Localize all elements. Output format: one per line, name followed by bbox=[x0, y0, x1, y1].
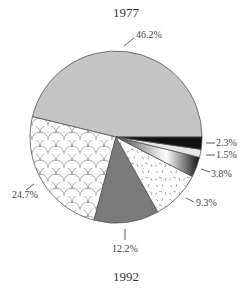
label-1-5: 1.5% bbox=[206, 149, 237, 160]
label-3-8-text: 3.8% bbox=[211, 168, 232, 179]
label-9-3: 9.3% bbox=[186, 197, 217, 208]
pie-chart: 46.2% 2.3% 1.5% 3.8% 9.3% 12.2% 24.7% bbox=[0, 0, 252, 291]
label-3-8: 3.8% bbox=[201, 168, 232, 179]
label-2-3-text: 2.3% bbox=[216, 137, 237, 148]
label-2-3: 2.3% bbox=[206, 137, 237, 148]
label-1-5-text: 1.5% bbox=[216, 149, 237, 160]
label-46-2: 46.2% bbox=[124, 29, 162, 46]
label-24-7: 24.7% bbox=[12, 184, 38, 200]
label-12-2: 12.2% bbox=[112, 229, 138, 254]
label-46-2-text: 46.2% bbox=[136, 29, 162, 40]
label-12-2-text: 12.2% bbox=[112, 243, 138, 254]
chart-title-1992: 1992 bbox=[0, 269, 252, 285]
label-9-3-text: 9.3% bbox=[196, 197, 217, 208]
pie-slices bbox=[30, 51, 202, 223]
label-24-7-text: 24.7% bbox=[12, 189, 38, 200]
